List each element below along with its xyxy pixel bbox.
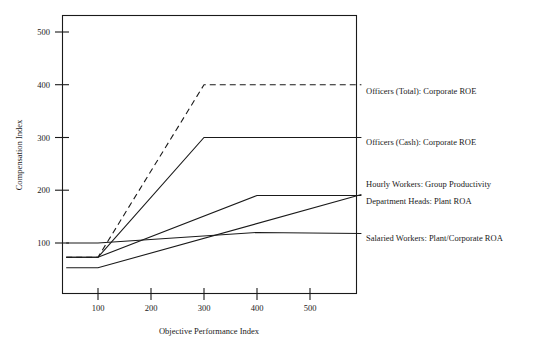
y-tick-label-200: 200 (37, 185, 50, 195)
series-line-department-heads (66, 196, 361, 258)
series-line-hourly-workers (66, 194, 361, 267)
y-axis-title: Compensation Index (14, 119, 24, 190)
series-label-salaried-workers: Salaried Workers: Plant/Corporate ROA (366, 233, 504, 243)
series-labels: Officers (Total): Corporate ROE Officers… (366, 86, 504, 243)
series-label-department-heads: Department Heads: Plant ROA (366, 196, 472, 206)
x-axis-tick-labels: 100 200 300 400 500 (92, 303, 317, 313)
x-tick-label-300: 300 (198, 303, 211, 313)
x-tick-label-200: 200 (145, 303, 158, 313)
plot-area-frame (63, 16, 357, 294)
series-label-officers-total: Officers (Total): Corporate ROE (366, 86, 476, 96)
series-label-officers-cash: Officers (Cash): Corporate ROE (366, 137, 476, 147)
series-label-hourly-workers: Hourly Workers: Group Productivity (366, 179, 492, 189)
chart-figure: 500 400 300 200 100 Compensation Index 1… (0, 0, 533, 348)
x-axis-title: Objective Performance Index (159, 326, 260, 336)
series-line-officers-cash (66, 138, 361, 258)
series-line-officers-total (66, 85, 361, 257)
series-lines (66, 85, 361, 268)
y-axis-tick-labels: 500 400 300 200 100 (37, 27, 50, 248)
x-tick-label-500: 500 (304, 303, 317, 313)
x-tick-label-400: 400 (251, 303, 264, 313)
x-tick-label-100: 100 (92, 303, 105, 313)
y-tick-label-400: 400 (37, 80, 50, 90)
y-tick-label-300: 300 (37, 133, 50, 143)
line-chart-canvas: 500 400 300 200 100 Compensation Index 1… (0, 0, 533, 348)
y-tick-label-100: 100 (37, 238, 50, 248)
y-tick-label-500: 500 (37, 27, 50, 37)
